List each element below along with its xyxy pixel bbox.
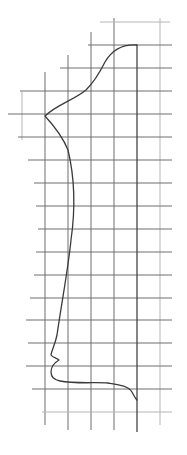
vase-profile-diagram — [0, 0, 187, 455]
grid — [8, 18, 172, 430]
